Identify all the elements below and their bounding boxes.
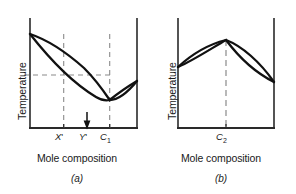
vapour-curve-a	[30, 34, 137, 100]
x-axis-label-b: Mole composition	[148, 152, 294, 164]
tick-label-x-prime: X'	[55, 131, 63, 142]
figure-container: Temperature X' Y' C1 Mole composition (a…	[0, 0, 296, 194]
tick-label-c2: C2	[216, 131, 227, 144]
tick-label-c1: C1	[100, 131, 111, 144]
panel-a: Temperature X' Y' C1 Mole composition (a…	[0, 0, 150, 194]
panel-b: Temperature C2 Mole composition (b)	[150, 0, 296, 194]
y-axis-label-b: Temperature	[166, 62, 178, 120]
x-axis-label-a: Mole composition	[2, 152, 152, 164]
y-axis-label-a: Temperature	[16, 62, 28, 120]
tick-label-y-prime: Y'	[79, 131, 87, 142]
panel-caption-b: (b)	[148, 173, 294, 184]
panel-caption-a: (a)	[2, 173, 152, 184]
